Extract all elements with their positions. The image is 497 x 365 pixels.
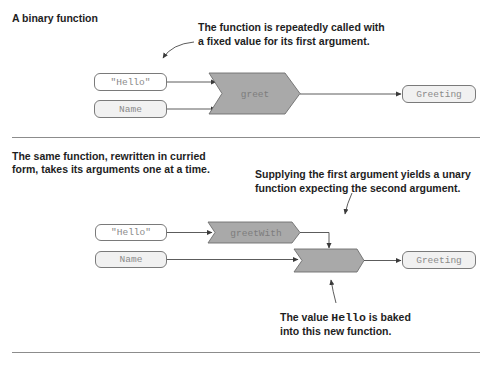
greetwith-label: greetWith	[230, 228, 281, 239]
greet-function-chevron: greet	[209, 73, 300, 114]
unary-function-chevron	[294, 249, 364, 272]
unary-annotation-arrow	[345, 193, 352, 214]
greet-label: greet	[241, 89, 270, 100]
greetwith-function-chevron: greetWith	[208, 222, 300, 243]
diagram-shapes: greet greetWith	[0, 0, 497, 365]
top-annotation-arrow	[163, 42, 194, 58]
baked-value-annotation-arrow	[331, 280, 336, 303]
greetwith-to-unary-connector	[300, 233, 329, 249]
